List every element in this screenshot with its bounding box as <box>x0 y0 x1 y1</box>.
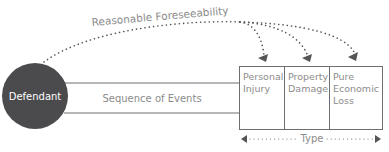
svg-text:Damage: Damage <box>288 83 328 94</box>
arrow-head-icon <box>302 54 312 62</box>
svg-text:Personal: Personal <box>243 71 283 82</box>
type-axis: Type <box>241 133 381 144</box>
svg-text:Pure: Pure <box>333 71 354 82</box>
type-pure-economic-loss: Pure Economic Loss <box>333 71 379 106</box>
type-axis-label: Type <box>300 133 324 144</box>
svg-text:Economic: Economic <box>333 83 379 94</box>
sequence-label: Sequence of Events <box>102 93 201 104</box>
svg-text:Property: Property <box>288 71 329 82</box>
foreseeability-diagram: Reasonable Foreseeability Sequence of Ev… <box>0 0 389 152</box>
arrow-head-icon <box>258 54 268 62</box>
svg-text:Loss: Loss <box>333 95 354 106</box>
svg-text:Injury: Injury <box>243 83 270 94</box>
arrowheads <box>258 52 358 62</box>
arrow-right-icon <box>375 135 381 143</box>
arrow-head-icon <box>348 52 358 61</box>
arrow-left-icon <box>241 135 247 143</box>
type-property-damage: Property Damage <box>288 71 329 94</box>
defendant-label: Defendant <box>9 91 62 102</box>
type-personal-injury: Personal Injury <box>243 71 283 94</box>
foreseeability-label: Reasonable Foreseeability <box>91 4 229 28</box>
